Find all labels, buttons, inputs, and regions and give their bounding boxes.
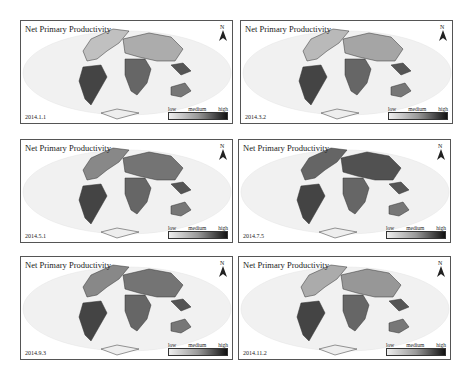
legend-colorbar bbox=[388, 112, 448, 120]
legend-medium: medium bbox=[188, 106, 206, 112]
legend-medium: medium bbox=[188, 225, 206, 231]
legend-low: low bbox=[168, 106, 176, 112]
npp-legend: low medium high bbox=[168, 106, 228, 120]
npp-map-panel: Net Primary Productivity N 2014.1.1 low … bbox=[20, 20, 233, 124]
map-date: 2014.11.2 bbox=[243, 350, 267, 356]
map-date: 2014.5.1 bbox=[25, 233, 46, 239]
legend-low: low bbox=[388, 106, 396, 112]
map-title: Net Primary Productivity bbox=[245, 24, 331, 34]
map-date: 2014.7.5 bbox=[243, 233, 264, 239]
npp-map-panel: Net Primary Productivity N 2014.11.2 low… bbox=[238, 256, 451, 360]
npp-legend: low medium high bbox=[168, 225, 228, 239]
north-arrow-icon: N bbox=[436, 143, 446, 161]
map-date: 2014.9.3 bbox=[25, 350, 46, 356]
legend-low: low bbox=[168, 225, 176, 231]
map-title: Net Primary Productivity bbox=[25, 143, 111, 153]
npp-legend: low medium high bbox=[388, 106, 448, 120]
legend-medium: medium bbox=[188, 342, 206, 348]
north-arrow-icon: N bbox=[218, 143, 228, 161]
legend-high: high bbox=[436, 342, 446, 348]
north-arrow-icon: N bbox=[438, 24, 448, 42]
legend-colorbar bbox=[168, 112, 228, 120]
npp-map-panel: Net Primary Productivity N 2014.5.1 low … bbox=[20, 139, 233, 243]
legend-colorbar bbox=[386, 348, 446, 356]
legend-high: high bbox=[218, 225, 228, 231]
legend-low: low bbox=[168, 342, 176, 348]
legend-low: low bbox=[386, 342, 394, 348]
npp-legend: low medium high bbox=[168, 342, 228, 356]
npp-legend: low medium high bbox=[386, 225, 446, 239]
npp-map-panel: Net Primary Productivity N 2014.3.2 low … bbox=[240, 20, 453, 124]
legend-high: high bbox=[218, 106, 228, 112]
legend-colorbar bbox=[168, 348, 228, 356]
legend-high: high bbox=[438, 106, 448, 112]
north-arrow-icon: N bbox=[218, 260, 228, 278]
legend-low: low bbox=[386, 225, 394, 231]
legend-colorbar bbox=[168, 231, 228, 239]
map-title: Net Primary Productivity bbox=[243, 143, 329, 153]
npp-legend: low medium high bbox=[386, 342, 446, 356]
north-arrow-icon: N bbox=[436, 260, 446, 278]
map-date: 2014.1.1 bbox=[25, 114, 46, 120]
npp-map-panel: Net Primary Productivity N 2014.7.5 low … bbox=[238, 139, 451, 243]
map-title: Net Primary Productivity bbox=[25, 260, 111, 270]
legend-medium: medium bbox=[408, 106, 426, 112]
legend-colorbar bbox=[386, 231, 446, 239]
legend-high: high bbox=[436, 225, 446, 231]
map-title: Net Primary Productivity bbox=[25, 24, 111, 34]
npp-map-panel: Net Primary Productivity N 2014.9.3 low … bbox=[20, 256, 233, 360]
map-title: Net Primary Productivity bbox=[243, 260, 329, 270]
legend-medium: medium bbox=[406, 342, 424, 348]
north-arrow-icon: N bbox=[218, 24, 228, 42]
legend-high: high bbox=[218, 342, 228, 348]
legend-medium: medium bbox=[406, 225, 424, 231]
map-date: 2014.3.2 bbox=[245, 114, 266, 120]
